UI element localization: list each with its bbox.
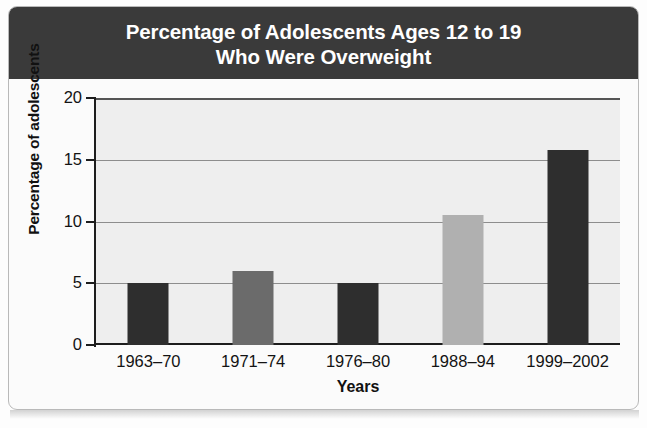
y-axis-tick-labels: 05101520	[44, 0, 82, 428]
y-axis-tick-label: 5	[48, 274, 82, 291]
bar	[442, 215, 483, 345]
y-axis-tick-label: 20	[48, 89, 82, 106]
plot-area-wrapper	[96, 98, 620, 345]
x-axis-tick-label: 1999–2002	[526, 352, 609, 371]
x-axis-title: Years	[96, 378, 620, 396]
y-axis-tick	[86, 344, 95, 346]
y-axis-tick	[86, 221, 95, 223]
y-axis-tick	[86, 97, 95, 99]
figure-root: the same time period. shows the results …	[0, 0, 647, 428]
bar-series	[96, 98, 620, 345]
bar	[547, 150, 588, 345]
bar-slot	[410, 98, 515, 345]
chart-title-banner: Percentage of Adolescents Ages 12 to 19 …	[9, 7, 638, 79]
x-axis-tick-label: 1963–70	[116, 352, 180, 371]
bar-slot	[515, 98, 620, 345]
y-axis-title: Percentage of adolescents	[25, 9, 43, 269]
y-axis-tick-label: 10	[48, 213, 82, 230]
bar-slot	[306, 98, 411, 345]
y-axis-tick-label: 15	[48, 151, 82, 168]
x-axis-tick-labels: 1963–701971–741976–801988–941999–2002	[96, 352, 620, 376]
y-axis-tick	[86, 159, 95, 161]
bar	[337, 283, 378, 345]
x-axis-tick-label: 1988–94	[431, 352, 495, 371]
y-axis-tick-label: 0	[48, 336, 82, 353]
bar	[233, 271, 274, 345]
bar-slot	[201, 98, 306, 345]
x-axis-tick-label: 1976–80	[326, 352, 390, 371]
bar	[128, 283, 169, 345]
y-axis-tick	[86, 282, 95, 284]
page-shadow	[10, 410, 639, 419]
x-axis-tick-label: 1971–74	[221, 352, 285, 371]
bar-slot	[96, 98, 201, 345]
chart-title-line-b: Who Were Overweight	[216, 44, 431, 69]
chart-title-line-a: Percentage of Adolescents Ages 12 to 19	[126, 19, 522, 44]
